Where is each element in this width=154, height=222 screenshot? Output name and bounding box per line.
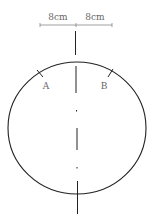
ruler-left-label: 8cm [48,12,68,22]
point-b-label: B [101,81,108,91]
center-axis-line [76,31,78,214]
measurement-ruler: 8cm 8cm [40,12,112,27]
point-a-label: A [42,81,50,91]
ruler-right-label: 8cm [85,12,105,22]
diagram-canvas: 8cm 8cm A B [0,0,154,222]
